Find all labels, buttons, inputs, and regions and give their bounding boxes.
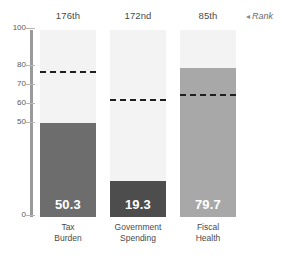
y-tick-80: 80	[0, 60, 38, 70]
left-arrow-icon: ◂	[246, 12, 250, 21]
category-label-fiscal-health-line1: Fiscal	[197, 222, 219, 232]
y-tick-line-100	[26, 28, 35, 29]
rank-legend-label: Rank	[252, 11, 273, 21]
bar-fill-tax-burden: 50.3	[40, 123, 96, 217]
rank-label-fiscal-health: 85th	[174, 9, 242, 23]
y-tick-60: 60	[0, 98, 38, 108]
y-tick-0: 0	[0, 210, 38, 220]
category-label-government-spending-line2: Spending	[100, 233, 176, 244]
category-label-fiscal-health-line2: Health	[170, 233, 246, 244]
y-tick-line-50	[26, 122, 35, 123]
y-tick-line-80	[26, 65, 35, 66]
category-label-government-spending-line1: Government	[115, 222, 162, 232]
category-label-tax-burden: Tax Burden	[30, 222, 106, 244]
bar-value-tax-burden: 50.3	[40, 197, 96, 212]
bar-column-tax-burden[interactable]: 50.3	[40, 30, 96, 217]
category-label-row: Tax Burden Government Spending Fiscal He…	[0, 222, 282, 252]
y-tick-100: 100	[0, 23, 38, 33]
y-tick-line-60	[26, 103, 35, 104]
y-tick-label-100: 100	[13, 23, 26, 33]
y-tick-50: 50	[0, 117, 38, 127]
y-tick-label-70: 70	[17, 79, 26, 89]
bar-chart: 176th 172nd 85th ◂Rank 100 80 70 60 50	[0, 0, 282, 258]
category-label-government-spending: Government Spending	[100, 222, 176, 244]
plot-area: 100 80 70 60 50 0 50.3	[0, 28, 282, 218]
rank-label-tax-burden: 176th	[34, 9, 102, 23]
category-label-fiscal-health: Fiscal Health	[170, 222, 246, 244]
bar-value-government-spending: 19.3	[110, 197, 166, 212]
y-tick-line-0	[26, 215, 35, 216]
bar-fill-fiscal-health: 79.7	[180, 68, 236, 217]
rank-row: 176th 172nd 85th ◂Rank	[0, 9, 282, 23]
bar-fill-government-spending: 19.3	[110, 181, 166, 217]
y-tick-70: 70	[0, 79, 38, 89]
bar-column-government-spending[interactable]: 19.3	[110, 30, 166, 217]
rank-label-government-spending: 172nd	[104, 9, 172, 23]
y-tick-line-70	[26, 84, 35, 85]
bar-column-fiscal-health[interactable]: 79.7	[180, 30, 236, 217]
y-tick-label-50: 50	[17, 117, 26, 127]
reference-line-government-spending	[110, 99, 166, 101]
bar-value-fiscal-health: 79.7	[180, 197, 236, 212]
y-tick-label-80: 80	[17, 60, 26, 70]
y-tick-label-60: 60	[17, 98, 26, 108]
reference-line-fiscal-health	[180, 94, 236, 96]
category-label-tax-burden-line1: Tax	[61, 222, 74, 232]
category-label-tax-burden-line2: Burden	[30, 233, 106, 244]
reference-line-tax-burden	[40, 71, 96, 73]
rank-legend: ◂Rank	[246, 9, 273, 24]
